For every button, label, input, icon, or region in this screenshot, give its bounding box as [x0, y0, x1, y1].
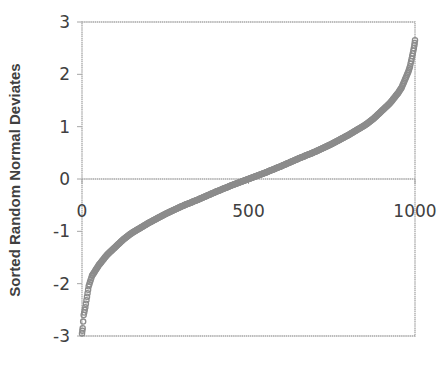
y-tick-label: 2	[59, 64, 70, 84]
x-tick-label: 1000	[393, 201, 436, 221]
data-series	[79, 38, 417, 336]
y-tick-label: 0	[59, 169, 70, 189]
y-tick-label: -1	[53, 221, 70, 241]
y-tick-label: 3	[59, 12, 70, 32]
y-tick-label: -2	[53, 274, 70, 294]
y-tick-label: -3	[53, 326, 70, 346]
y-axis-ticks: 3210-1-2-3	[53, 12, 82, 346]
x-tick-label: 0	[77, 201, 88, 221]
x-axis-ticks: 05001000	[77, 179, 437, 221]
y-tick-label: 1	[59, 117, 70, 137]
chart-canvas: 3210-1-2-3 05001000 Sorted Random Normal…	[0, 0, 439, 365]
y-axis-title: Sorted Random Normal Deviates	[6, 63, 23, 296]
x-tick-label: 500	[232, 201, 264, 221]
